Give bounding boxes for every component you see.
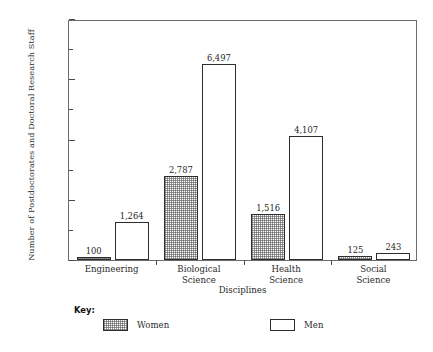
bar-value-label: 100 <box>86 246 102 256</box>
legend-swatch-men <box>270 319 295 331</box>
bar-women-health-science: 1,516 <box>251 214 285 260</box>
y-tick-mark <box>69 19 75 20</box>
bar-women-social-science: 125 <box>338 256 372 260</box>
y-tick-mark <box>69 200 75 201</box>
bar-value-label: 6,497 <box>207 53 231 63</box>
bar-value-label: 4,107 <box>294 125 318 135</box>
x-tick-label-line: Science <box>330 275 417 286</box>
legend-swatch-women <box>103 319 128 331</box>
x-axis-title: Disciplines <box>68 285 417 295</box>
x-tick-label-line: Engineering <box>68 264 155 275</box>
bar-men-health-science: 4,107 <box>289 136 323 260</box>
y-tick-mark <box>69 260 75 261</box>
x-tick-label-line: Science <box>243 275 330 286</box>
plot-area: 8,0006,0004,0002,0000 1001,2642,7876,497… <box>68 20 417 261</box>
y-tick-mark <box>69 170 73 171</box>
x-tick-label-line: Science <box>155 275 242 286</box>
x-tick-label-line: Social <box>330 264 417 275</box>
bar-value-label: 125 <box>347 245 363 255</box>
plot-inner: 8,0006,0004,0002,0000 1001,2642,7876,497… <box>69 21 416 260</box>
bar-value-label: 1,516 <box>256 203 280 213</box>
bar-men-social-science: 243 <box>376 253 410 260</box>
x-tick-label-health: HealthScience <box>243 264 330 285</box>
legend-item-women: Women <box>103 319 169 331</box>
bar-men-biological-science: 6,497 <box>202 64 236 260</box>
bar-women-biological-science: 2,787 <box>164 176 198 260</box>
legend-label-women: Women <box>137 320 169 330</box>
bar-women-engineering: 100 <box>77 257 111 260</box>
legend-label-men: Men <box>304 320 323 330</box>
y-tick-mark <box>69 230 73 231</box>
bar-chart-figure: Number of Postdoctorates and Doctoral Re… <box>0 0 433 352</box>
y-tick-mark <box>69 49 73 50</box>
x-tick-label-social: SocialScience <box>330 264 417 285</box>
chart-legend: Key: Women Men <box>0 305 433 345</box>
bar-value-label: 1,264 <box>120 211 144 221</box>
y-axis-title: Number of Postdoctorates and Doctoral Re… <box>26 20 36 270</box>
y-tick-mark <box>69 109 73 110</box>
x-tick-label-line: Health <box>243 264 330 275</box>
legend-item-men: Men <box>270 319 323 331</box>
y-tick-mark <box>69 79 75 80</box>
bar-men-engineering: 1,264 <box>115 222 149 260</box>
legend-key-label: Key: <box>74 305 95 315</box>
x-tick-label-line: Biological <box>155 264 242 275</box>
bar-value-label: 243 <box>385 242 401 252</box>
y-tick-mark <box>69 140 75 141</box>
x-tick-label-biological: BiologicalScience <box>155 264 242 285</box>
x-tick-label-engineering: Engineering <box>68 264 155 275</box>
bar-value-label: 2,787 <box>169 165 193 175</box>
